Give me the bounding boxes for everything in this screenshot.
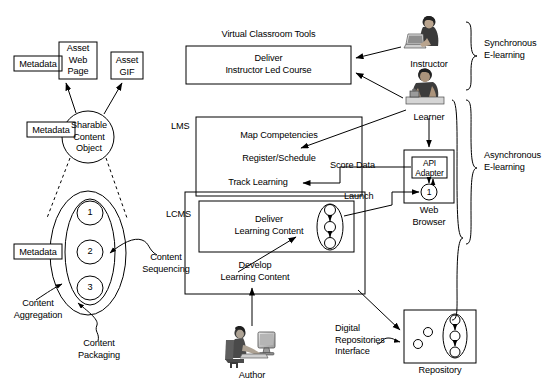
- repository-sco-oval: [443, 314, 467, 358]
- cone-right-dashed: [106, 158, 127, 218]
- deliver-sco-stack-oval: [317, 204, 343, 250]
- asynchronous-bracket-label: Asynchronous E-learning: [484, 150, 549, 173]
- develop-learning-content-label: Develop Learning Content: [208, 260, 302, 283]
- cone-left-dashed: [47, 158, 70, 218]
- arrow-instructor-to-vct: [356, 47, 401, 58]
- repository-sco-node-3: [450, 347, 460, 357]
- repository-asset-1: [424, 328, 433, 337]
- repository-asset-2: [414, 340, 423, 349]
- arrow-sco-to-asset-gif: [104, 83, 122, 114]
- author-figure-icon: [216, 324, 282, 370]
- content-packaging-label: Content Packaging: [62, 338, 136, 361]
- repository-sco-node-1: [450, 315, 460, 325]
- sco-item-3-label: 3: [78, 282, 102, 294]
- diagram-canvas: Metadata Asset Web Page Asset GIF Metada…: [0, 0, 549, 387]
- deliver-sco-node-3: [325, 238, 336, 249]
- bracket-synchronous: [466, 22, 477, 90]
- virtual-classroom-caption: Virtual Classroom Tools: [206, 29, 331, 41]
- metadata-label-1: Metadata: [14, 59, 62, 71]
- web-browser-sco-number: 1: [419, 187, 439, 199]
- lms-item-track-learning: Track Learning: [213, 177, 303, 189]
- sco-label: Sharable Content Object: [63, 120, 115, 155]
- deliver-learning-content-label: Deliver Learning Content: [222, 214, 316, 237]
- metadata-label-3: Metadata: [14, 247, 62, 259]
- virtual-classroom-body: Deliver Instructor Led Course: [206, 53, 331, 76]
- api-adapter-label: API Adapter: [412, 158, 447, 178]
- asset-web-page-label: Asset Web Page: [59, 43, 97, 78]
- instructor-figure-icon: [398, 14, 446, 56]
- arrow-sco-to-asset-web: [66, 83, 76, 113]
- arrow-learner-to-lms: [301, 110, 406, 148]
- deliver-sco-node-1: [325, 205, 336, 216]
- asset-gif-label: Asset GIF: [111, 55, 143, 78]
- repository-box: [404, 310, 476, 363]
- lms-item-register-schedule: Register/Schedule: [219, 153, 339, 165]
- lcms-label: LCMS: [166, 209, 198, 221]
- content-aggregation-label: Content Aggregation: [0, 298, 76, 321]
- content-packaging-connector: [78, 303, 98, 341]
- sco-item-1-label: 1: [78, 207, 102, 219]
- arrow-learner-to-vct: [356, 73, 403, 98]
- digital-repositories-interface-label: Digital Repositories Interface: [335, 323, 401, 358]
- content-sequencing-label: Content Sequencing: [132, 252, 200, 275]
- sco-item-2-label: 2: [78, 246, 102, 258]
- synchronous-bracket-label: Synchronous E-learning: [484, 38, 548, 61]
- launch-label: Launch: [344, 191, 388, 203]
- repository-sco-node-2: [450, 331, 460, 341]
- repository-caption: Repository: [404, 365, 476, 377]
- lms-item-map-competencies: Map Competencies: [219, 130, 339, 142]
- learner-caption: Learner: [403, 112, 455, 124]
- score-data-label: Score Data: [330, 160, 390, 172]
- bracket-asynchronous: [466, 100, 477, 244]
- learner-figure-icon: [398, 66, 448, 110]
- deliver-sco-node-2: [325, 222, 336, 233]
- lms-label: LMS: [171, 121, 197, 133]
- web-browser-caption: Web Browser: [400, 205, 458, 228]
- author-caption: Author: [224, 370, 280, 382]
